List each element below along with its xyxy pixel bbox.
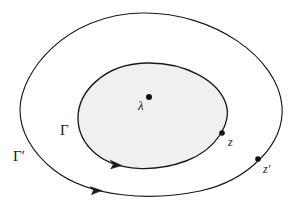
point-z-prime-dot [255, 156, 261, 162]
point-lambda-dot [146, 94, 152, 100]
point-z-dot [219, 130, 225, 136]
inner-contour-label: Γ [60, 123, 69, 138]
contour-diagram-canvas [0, 0, 294, 208]
point-z-label: z [228, 136, 233, 148]
outer-contour-direction-arrow-icon [90, 186, 102, 194]
point-z-prime-label: z′ [263, 163, 270, 175]
contour-diagram-figure: Γ′ Γ λ z z′ [0, 0, 294, 208]
point-lambda-label: λ [138, 99, 144, 112]
outer-contour-label: Γ′ [13, 149, 25, 164]
